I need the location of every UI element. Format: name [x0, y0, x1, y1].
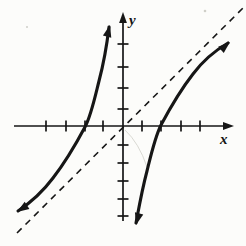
scan-speckle-0: [204, 10, 207, 13]
function-graph-figure: x y: [0, 0, 246, 246]
x-axis-label: x: [219, 131, 228, 147]
curve-left-branch: [18, 27, 109, 211]
y-axis-arrowhead: [119, 12, 127, 23]
y-axis-label: y: [127, 12, 136, 28]
right-branch-lower-arrowhead: [135, 212, 143, 225]
curve-right-branch: [136, 43, 228, 223]
scan-speckle-1: [26, 26, 28, 28]
slant-asymptote-dashed-line: [17, 8, 243, 233]
function-graph: x y: [0, 0, 246, 246]
x-axis-arrowhead: [223, 122, 234, 130]
left-branch-upper-arrowhead: [103, 25, 111, 38]
plot-layer: [14, 8, 243, 233]
scan-artifact-line: [125, 130, 147, 167]
